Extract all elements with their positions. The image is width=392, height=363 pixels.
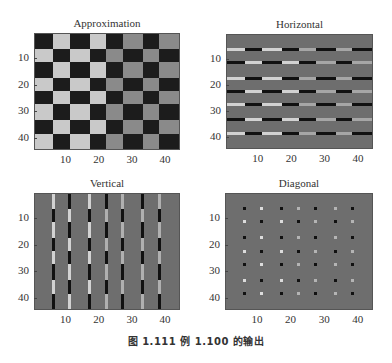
vertical-edge-segment (88, 251, 91, 264)
checker-tile (143, 78, 160, 92)
diagonal-dot (280, 250, 283, 253)
vertical-edge-segment (68, 209, 71, 222)
diagonal-dot (280, 279, 283, 282)
diagonal-dot (280, 236, 283, 239)
x-tick-label: 20 (279, 313, 303, 325)
vertical-edge-segment (141, 251, 144, 264)
horizontal-edge-segment (352, 48, 373, 51)
x-tick-label: 10 (245, 313, 269, 325)
vertical-edge-segment (88, 238, 91, 251)
x-tick-label: 40 (346, 313, 370, 325)
y-tick-mark (34, 85, 37, 86)
diagonal-dot (243, 220, 246, 223)
checker-tile (123, 34, 143, 49)
vertical-edge-segment (158, 238, 161, 251)
checker-tile (159, 49, 180, 63)
vertical-edge-segment (121, 280, 124, 293)
diagonal-dot (260, 207, 263, 210)
checker-tile (159, 78, 180, 92)
diagonal-dot (334, 263, 337, 266)
horizontal-edge-segment (352, 61, 373, 64)
x-tick-label: 30 (312, 313, 336, 325)
diagonal-dot (280, 263, 283, 266)
x-tick-label: 40 (153, 153, 177, 165)
vertical-edge-segment (52, 251, 55, 264)
vertical-edge-segment (68, 222, 71, 238)
horizontal-edge-segment (299, 132, 316, 135)
vertical-edge-segment (105, 222, 108, 238)
y-tick-mark (34, 218, 37, 219)
vertical-edge-segment (105, 280, 108, 293)
vertical-edge-segment (88, 222, 91, 238)
horizontal-edge-segment (262, 61, 282, 64)
vertical-edge-segment (68, 238, 71, 251)
diagonal-dot (351, 220, 354, 223)
horizontal-edge-segment (227, 77, 245, 80)
horizontal-edge-segment (227, 132, 245, 135)
y-tick-label: 30 (9, 264, 29, 276)
horizontal-edge-segment (316, 103, 336, 106)
vertical-edge-segment (121, 194, 124, 209)
x-tick-label: 40 (346, 152, 370, 164)
checker-tile (90, 62, 107, 78)
vertical-edge-segment (68, 294, 71, 310)
horizontal-edge-segment (282, 48, 299, 51)
diagonal-panel: Diagonal 1020304010203040 (225, 193, 373, 310)
horizontal-edge-segment (336, 48, 353, 51)
horizontal-edge-segment (245, 103, 262, 106)
vertical-title: Vertical (34, 177, 180, 189)
checker-tile (35, 62, 54, 78)
horizontal-edge-segment (336, 77, 353, 80)
diagonal-dot (351, 263, 354, 266)
checker-tile (123, 104, 143, 120)
checker-tile (106, 120, 123, 134)
horizontal-edge-segment (316, 90, 336, 93)
diagonal-dot (297, 207, 300, 210)
diagonal-dot (243, 250, 246, 253)
vertical-edge-segment (141, 280, 144, 293)
vertical-edge-segment (121, 264, 124, 280)
horizontal-edge-segment (227, 90, 245, 93)
checker-tile (123, 91, 143, 105)
diagonal-dot (243, 236, 246, 239)
horizontal-edge-segment (262, 103, 282, 106)
horizontal-edge-segment (282, 118, 299, 121)
vertical-edge-segment (121, 209, 124, 222)
y-tick-label: 10 (200, 211, 220, 223)
horizontal-edge-segment (316, 48, 336, 51)
checker-tile (123, 62, 143, 78)
diagonal-title: Diagonal (225, 177, 373, 189)
diagonal-dot (260, 292, 263, 295)
diagonal-dot (280, 292, 283, 295)
checker-tile (143, 91, 160, 105)
checker-tile (90, 134, 107, 150)
horizontal-edge-segment (262, 118, 282, 121)
vertical-edge-segment (88, 280, 91, 293)
horizontal-edge-segment (299, 90, 316, 93)
horizontal-edge-segment (299, 77, 316, 80)
vertical-edge-segment (105, 209, 108, 222)
horizontal-plot (226, 34, 373, 149)
diagonal-dot (260, 250, 263, 253)
approximation-title: Approximation (34, 17, 180, 29)
x-tick-label: 30 (313, 152, 337, 164)
horizontal-edge-segment (299, 61, 316, 64)
horizontal-edge-segment (227, 48, 245, 51)
vertical-edge-segment (105, 238, 108, 251)
horizontal-edge-segment (316, 118, 336, 121)
y-tick-mark (226, 137, 229, 138)
x-tick-label: 10 (54, 153, 78, 165)
horizontal-edge-segment (282, 103, 299, 106)
checker-tile (143, 49, 160, 63)
horizontal-edge-segment (245, 132, 262, 135)
vertical-edge-segment (88, 294, 91, 310)
diagonal-dot (314, 220, 317, 223)
y-tick-mark (225, 271, 228, 272)
y-tick-label: 40 (200, 291, 220, 303)
horizontal-edge-segment (245, 90, 262, 93)
checker-tile (159, 104, 180, 120)
horizontal-title: Horizontal (226, 18, 373, 30)
checker-tile (35, 34, 54, 49)
diagonal-dot (351, 250, 354, 253)
checker-tile (53, 49, 70, 63)
